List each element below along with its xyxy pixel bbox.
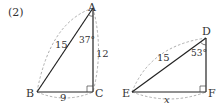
vertex-label-e: E <box>122 87 130 100</box>
problem-number: (2) <box>8 6 24 19</box>
vertex-label-a: A <box>87 1 97 14</box>
triangle-def: D E F 15 x 53° <box>122 25 216 105</box>
diagram-canvas: (2) A B C 15 12 9 37° D <box>0 0 224 112</box>
vertex-label-f: F <box>208 87 216 100</box>
side-length-bc: 9 <box>60 92 66 103</box>
angle-label-d: 53° <box>191 48 207 58</box>
triangle-abc: A B C 15 12 9 37° <box>26 1 109 103</box>
vertex-label-b: B <box>26 87 34 100</box>
side-length-ab: 15 <box>55 39 68 50</box>
vertex-label-d: D <box>202 25 211 38</box>
side-length-ed: 15 <box>157 52 170 63</box>
side-ed <box>132 38 206 92</box>
side-ab <box>37 8 93 92</box>
right-angle-mark-f <box>200 86 206 92</box>
vertex-label-c: C <box>95 87 103 100</box>
right-angle-mark-c <box>87 86 93 92</box>
angle-arc-d <box>200 42 206 45</box>
angle-arc-a <box>89 15 93 17</box>
side-length-ac: 12 <box>96 48 109 59</box>
angle-label-a: 37° <box>79 35 95 45</box>
side-length-ef: x <box>164 94 170 105</box>
